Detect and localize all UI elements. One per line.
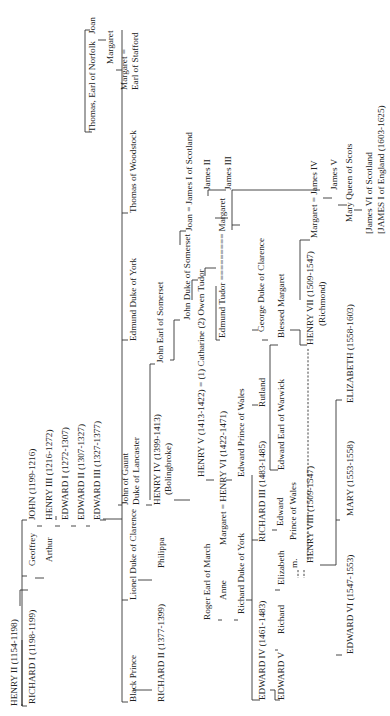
person-richard1: RICHARD I (1198-1199)	[27, 610, 37, 704]
person-john: JOHN (1199-1216)	[27, 449, 37, 520]
person-edward-pw3b: Prince of Wales	[288, 482, 298, 540]
person-edward4: EDWARD IV (1461-1483)	[257, 601, 267, 700]
person-edward1: EDWARD I (1272-1307)	[60, 427, 70, 520]
tree-connector	[232, 190, 320, 230]
connector-lines	[20, 30, 362, 706]
person-richard-york: Richard Duke of York	[236, 532, 246, 614]
person-elizabeth-y: Elizabeth	[276, 550, 286, 585]
person-edward5: EDWARD V	[276, 652, 286, 700]
person-edward6: EDWARD VI (1547-1553)	[345, 555, 355, 654]
person-anne: Anne	[218, 580, 228, 600]
person-mary-scots: Mary Queen of Scots	[344, 143, 354, 222]
person-james6a: [James VI of Scotland	[364, 152, 374, 234]
person-edward-warwick: Edward Earl of Warwick	[276, 378, 286, 470]
person-joan: Joan	[87, 17, 97, 34]
person-george-clarence: George Duke of Clarence	[256, 238, 266, 332]
person-henry8: HENRY VIII (1509-1547)	[305, 466, 315, 563]
person-james3: James III	[223, 156, 233, 190]
person-henry2: HENRY II (1154-1198)	[9, 619, 19, 706]
person-richard-pr: Richard	[276, 605, 286, 634]
person-edmund-york: Edmund Duke of York	[128, 257, 138, 341]
person-margaret-n: Margaret	[105, 30, 115, 64]
person-lionel: Lionel Duke of Clarence	[128, 509, 138, 600]
person-john-gaunt1: John of Gaunt	[120, 452, 130, 505]
person-roger: Roger Earl of March	[202, 543, 212, 620]
person-richard2: RICHARD II (1377-1399)	[156, 604, 166, 702]
person-geoffrey: Geoffrey	[27, 533, 37, 566]
person-edward-pw3a: Edward	[275, 497, 285, 526]
person-margaret-stafford1: Margaret =	[119, 49, 129, 90]
tree-connector	[320, 400, 342, 655]
person-thomas-woodstock: Thomas of Woodstock	[128, 130, 138, 213]
person-john-somerset-duke: John Duke of Somerset	[182, 234, 192, 320]
person-philippa: Philippa	[156, 537, 166, 568]
person-edward3: EDWARD III (1327-1377)	[92, 421, 102, 520]
person-james2: James II	[202, 159, 212, 190]
genealogy-tree: HENRY II (1154-1198)RICHARD I (1198-1199…	[0, 0, 390, 716]
person-henry3: HENRY III (1216-1272)	[44, 430, 54, 521]
person-black-prince: Black Prince	[128, 655, 138, 702]
person-margaret-james4: Margaret = James IV	[309, 160, 319, 238]
person-henry7: HENRY VII (1509-1547)	[305, 251, 315, 345]
tree-connector	[170, 320, 180, 360]
tree-connector	[323, 198, 362, 210]
person-margaret-stafford2: Earl of Stafford	[130, 32, 140, 90]
person-bolingbroke: (Bolingbroke)	[163, 443, 173, 495]
person-arthur: Arthur	[44, 538, 54, 563]
person-richmond: (Richmond)	[317, 282, 327, 326]
tree-connector	[118, 213, 128, 600]
person-richard3: RICHARD III (1483-1485)	[257, 441, 267, 542]
person-james5: James V	[329, 158, 339, 190]
tree-connector	[205, 268, 216, 276]
person-margaret-anjou: Margaret = HENRY VI (1422-1471)	[218, 411, 228, 545]
person-blessed-margaret: Blessed Margaret	[276, 273, 286, 338]
person-henry4: HENRY IV (1399-1413)	[152, 414, 162, 505]
person-m-mark: m.	[289, 559, 299, 568]
marriage-connector	[298, 570, 304, 578]
person-edward-pow: Edward Prince of Wales	[236, 388, 246, 477]
person-mary1: MARY (1553-1558)	[345, 441, 355, 516]
person-john-somerset-earl: John Earl of Somerset	[155, 281, 165, 363]
person-labels: HENRY II (1154-1198)RICHARD I (1198-1199…	[9, 17, 386, 706]
person-james6b: [JAMES I of England (1603-1625)	[376, 105, 386, 234]
person-thomas-norfolk: Thomas, Earl of Norfolk	[87, 41, 97, 132]
person-edmund-tudor: Edmund Tudor ========= Margaret	[217, 197, 227, 338]
person-joan-james1: Joan = James I of Scotland	[184, 132, 194, 231]
person-henry5: HENRY V (1413-1422) = (1) Catharine (2) …	[196, 269, 206, 477]
tree-connector	[20, 590, 28, 606]
person-edward2: EDWARD II (1307-1327)	[76, 424, 86, 520]
person-rutland: Rutland	[257, 378, 267, 407]
person-john-gaunt2: Duke of Lancaster	[131, 437, 141, 505]
person-elizabeth1: ELIZABETH (1558-1603)	[345, 304, 355, 403]
